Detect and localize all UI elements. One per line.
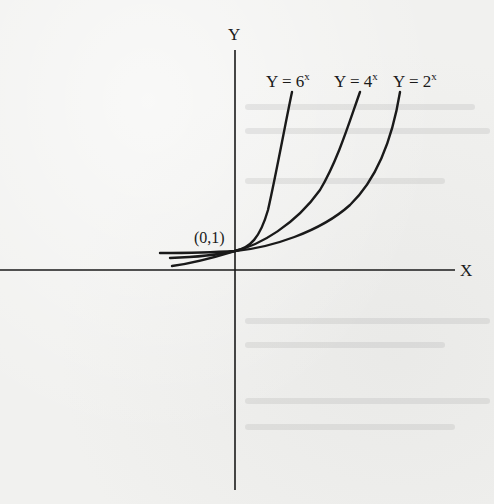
curve-label-6x-exponent: x (304, 70, 310, 82)
curve-label-6x-base: Y = 6 (266, 72, 304, 91)
point-label-0-1: (0,1) (194, 230, 225, 246)
curve-label-4x: Y = 4x (334, 71, 378, 90)
curve-label-4x-base: Y = 4 (334, 72, 372, 91)
curve-label-4x-exponent: x (372, 70, 378, 82)
curve-label-2x-base: Y = 2 (393, 72, 431, 91)
curve-label-6x: Y = 6x (266, 71, 310, 90)
figure-page: Y X (0,1) Y = 6x Y = 4x Y = 2x (0, 0, 494, 504)
curve-label-2x: Y = 2x (393, 71, 437, 90)
curve-label-2x-exponent: x (431, 70, 437, 82)
x-axis-label: X (460, 262, 472, 279)
curve-6x (160, 92, 292, 253)
y-axis-label: Y (228, 26, 240, 43)
